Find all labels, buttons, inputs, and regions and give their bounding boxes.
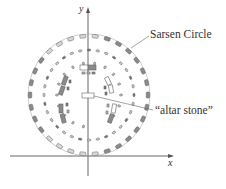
sarsen-leader-line (131, 36, 149, 48)
altar-stone (82, 93, 94, 98)
y-axis-arrow-icon (86, 7, 90, 13)
y-axis-label: y (79, 3, 83, 14)
x-axis-label: x (168, 157, 172, 168)
sarsen-circle-label: Sarsen Circle (150, 28, 212, 40)
altar-stone-label: “altar stone” (155, 104, 213, 116)
altar-leader-line (94, 96, 153, 110)
